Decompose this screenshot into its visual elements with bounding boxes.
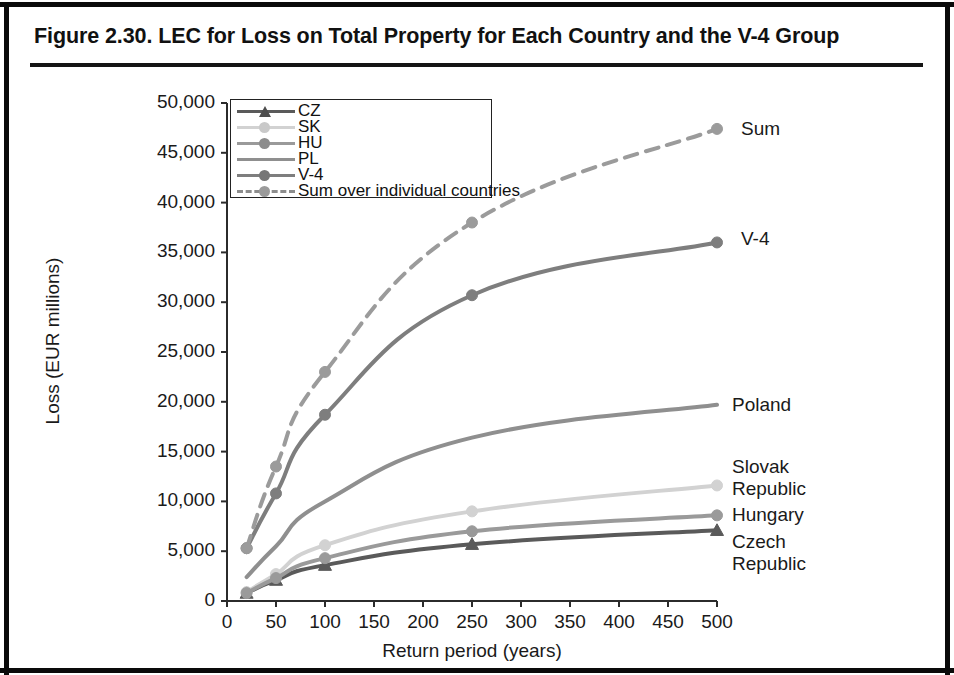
y-axis-tick-label: 30,000 [111,290,215,312]
series-label-hungary: Hungary [732,504,804,526]
series-label-czech-line2: Republic [732,553,806,574]
x-axis-tick-label: 500 [677,611,757,633]
y-axis-tick-label: 5,000 [111,539,215,561]
series-label-czech-line1: Czech [732,531,786,552]
series-label-poland: Poland [732,394,791,416]
legend-swatch-hu [237,135,295,151]
y-axis-tick-label: 25,000 [111,340,215,362]
legend-item-sum[interactable]: Sum over individual countries [237,183,520,199]
series-label-v4: V-4 [741,228,770,250]
legend-swatch-v4 [237,167,295,183]
x-axis-title: Return period (years) [327,640,617,662]
series-label-slovak-line2: Republic [732,478,806,499]
legend-swatch-sum [237,183,295,199]
y-axis-tick-label: 35,000 [111,240,215,262]
figure-panel: Figure 2.30. LEC for Loss on Total Prope… [0,0,954,675]
series-label-slovak-line1: Slovak [732,456,789,477]
y-axis-tick-label: 10,000 [111,489,215,511]
series-label-czech-republic: Czech Republic [732,531,806,575]
series-label-sum: Sum [741,118,780,140]
series-label-slovak-republic: Slovak Republic [732,456,806,500]
y-axis-tick-label: 0 [111,589,215,611]
y-axis-tick-label: 20,000 [111,390,215,412]
series-sk [241,480,722,598]
series-hu [241,510,722,599]
y-axis-tick-label: 40,000 [111,191,215,213]
y-axis-title: Loss (EUR millions) [42,226,64,456]
y-axis-tick-label: 45,000 [111,141,215,163]
chart-legend: CZ SK HU PL V-4 [230,99,492,198]
y-axis-tick-label: 15,000 [111,440,215,462]
legend-swatch-sk [237,119,295,135]
y-axis-tick-label: 50,000 [111,91,215,113]
legend-swatch-pl [237,151,295,167]
legend-label-sum: Sum over individual countries [298,183,520,199]
legend-swatch-cz [237,103,295,119]
